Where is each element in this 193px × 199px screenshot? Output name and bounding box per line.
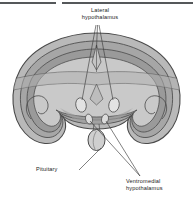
- label-ventromedial-hypothalamus: Ventromedial hypothalamus: [126, 178, 192, 191]
- label-pituitary: Pituitary: [36, 166, 78, 173]
- label-lateral-hypothalamus: Lateral hypothalamus: [73, 7, 127, 20]
- hypothalamus-diagram: [0, 0, 193, 199]
